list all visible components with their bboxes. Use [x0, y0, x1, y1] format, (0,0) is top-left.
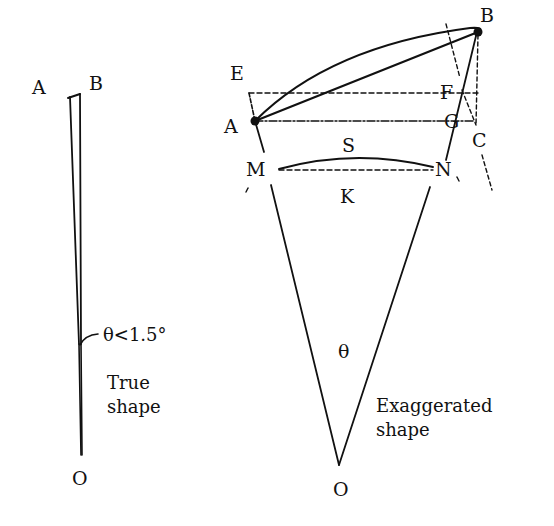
exaggerated-caption-line2: shape — [376, 419, 430, 440]
point-a-dot — [251, 117, 260, 126]
diagram-canvas: A B θ<1.5° True shape O — [0, 0, 554, 526]
label-c: C — [472, 129, 487, 151]
blade-chord-ab — [255, 32, 478, 121]
dashed-line-bc — [476, 35, 478, 125]
label-o: O — [333, 478, 349, 500]
true-angle-annotation: θ<1.5° — [103, 324, 167, 345]
label-m: M — [246, 158, 265, 180]
label-k: K — [340, 185, 355, 207]
true-shape-lower-right — [81, 344, 82, 455]
label-f: F — [440, 81, 453, 103]
dashed-slant-upper — [446, 24, 460, 78]
label-theta: θ — [338, 340, 349, 362]
true-label-b: B — [89, 72, 103, 94]
label-b: B — [480, 4, 494, 26]
dashed-slant-mid — [462, 90, 476, 125]
exaggerated-caption-line1: Exaggerated — [376, 395, 492, 416]
label-n: N — [435, 158, 452, 180]
tick-mark-n — [457, 177, 459, 181]
angle-leader-line — [80, 334, 98, 345]
radial-line-a-m — [255, 121, 264, 152]
arc-s — [279, 158, 433, 169]
true-label-a: A — [31, 76, 46, 98]
true-shape-right-edge — [80, 94, 81, 344]
diagram-svg: A B θ<1.5° True shape O — [0, 0, 554, 526]
cone-left-side — [271, 185, 339, 465]
label-e: E — [230, 62, 244, 84]
true-caption-line2: shape — [107, 396, 161, 417]
point-b-dot — [474, 28, 483, 37]
dashed-slant-lower — [482, 155, 492, 190]
tick-mark-m — [246, 188, 248, 192]
true-shape-figure — [68, 94, 98, 455]
true-shape-left-edge — [70, 97, 79, 344]
true-caption-line1: True — [107, 372, 150, 393]
true-label-o: O — [72, 467, 88, 489]
label-s: S — [342, 134, 355, 156]
label-g: G — [444, 110, 459, 132]
label-a: A — [223, 115, 238, 137]
